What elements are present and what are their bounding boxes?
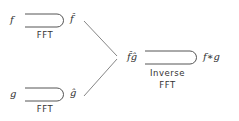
label-inverse-fft: FFT [145,80,190,90]
connector-ghat-to-product [84,59,117,96]
connector-fhat-to-product [84,21,117,56]
label-fft-bottom: FFT [33,104,57,114]
fft-transform-bottom [25,88,64,101]
label-inverse: Inverse [145,68,190,78]
label-f-hat: f̂ [70,14,74,24]
inverse-fft-transform [145,51,197,64]
label-g-hat: ĝ [70,88,76,98]
label-convolution: f∗g [203,52,220,62]
fft-transform-top [25,14,64,27]
label-fg-hat: f̂ĝ [127,52,137,62]
label-f: f [10,15,14,25]
label-g: g [10,89,16,99]
label-fft-top: FFT [33,30,57,40]
